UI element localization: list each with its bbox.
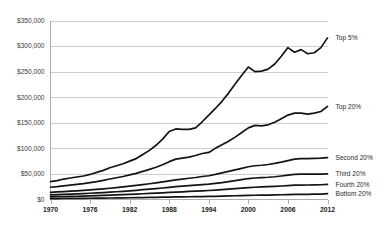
y-tick-label-150000: $150,000 [17, 119, 45, 126]
x-tick-label-2012: 2012 [320, 206, 335, 213]
series-label-top-20: Top 20% [336, 103, 362, 111]
series-label-bottom-20: Bottom 20% [336, 190, 372, 197]
x-tick-label-2006: 2006 [280, 206, 295, 213]
y-tick-label-0: $0 [37, 196, 45, 203]
x-tick-label-1976: 1976 [83, 206, 98, 213]
x-tick-label-1982: 1982 [122, 206, 137, 213]
series-labels-group: Top 5%Top 20%Second 20%Third 20%Fourth 2… [336, 34, 374, 197]
x-tick-label-2000: 2000 [241, 206, 256, 213]
y-tick-label-100000: $100,000 [17, 145, 45, 152]
series-line-top-5 [51, 38, 328, 182]
x-tick-label-1970: 1970 [43, 206, 58, 213]
y-tick-label-50000: $50,000 [21, 170, 45, 177]
chart-canvas: $0$50,000$100,000$150,000$200,000$250,00… [0, 0, 387, 234]
series-label-top-5: Top 5% [336, 34, 358, 42]
income-quintile-line-chart: $0$50,000$100,000$150,000$200,000$250,00… [0, 0, 387, 234]
y-tick-labels-group: $0$50,000$100,000$150,000$200,000$250,00… [17, 17, 45, 203]
x-tick-label-1994: 1994 [201, 206, 216, 213]
series-label-third-20: Third 20% [336, 170, 366, 177]
y-tick-label-200000: $200,000 [17, 94, 45, 101]
gridlines-group [51, 22, 328, 175]
x-tick-label-1988: 1988 [162, 206, 177, 213]
series-label-second-20: Second 20% [336, 154, 374, 161]
y-tick-label-350000: $350,000 [17, 17, 45, 24]
y-tick-label-250000: $250,000 [17, 68, 45, 75]
x-tick-labels-group: 19701976198219881994200020062012 [43, 206, 335, 213]
y-tick-label-300000: $300,000 [17, 42, 45, 49]
series-label-fourth-20: Fourth 20% [336, 181, 370, 188]
